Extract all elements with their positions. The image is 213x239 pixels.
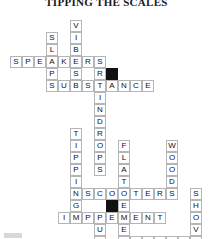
crossword-letter-cell[interactable]: S <box>190 188 202 200</box>
crossword-letter-cell[interactable]: C <box>94 188 106 200</box>
crossword-letter-cell[interactable]: P <box>94 152 106 164</box>
crossword-letter-cell[interactable]: E <box>178 236 190 239</box>
crossword-letter-cell[interactable]: R <box>94 128 106 140</box>
crossword-letter-cell[interactable]: E <box>118 236 130 239</box>
crossword-letter-cell[interactable]: G <box>70 200 82 212</box>
crossword-letter-cell[interactable]: I <box>58 212 70 224</box>
crossword-letter-cell[interactable]: O <box>106 188 118 200</box>
crossword-letter-cell[interactable]: A <box>46 56 58 68</box>
crossword-letter-cell[interactable]: V <box>70 20 82 32</box>
crossword-letter-cell[interactable]: V <box>190 224 202 236</box>
crossword-letter-cell[interactable]: N <box>118 80 130 92</box>
crossword-letter-cell[interactable]: P <box>82 212 94 224</box>
crossword-letter-cell[interactable]: T <box>94 80 106 92</box>
crossword-letter-cell[interactable]: R <box>154 188 166 200</box>
crossword-letter-cell[interactable]: P <box>46 68 58 80</box>
crossword-letter-cell[interactable]: T <box>118 176 130 188</box>
crossword-letter-cell[interactable]: O <box>166 152 178 164</box>
crossword-letter-cell[interactable]: N <box>142 212 154 224</box>
crossword-letter-cell[interactable]: A <box>118 164 130 176</box>
crossword-letter-cell[interactable]: S <box>94 164 106 176</box>
crossword-letter-cell[interactable]: O <box>94 140 106 152</box>
crossword-letter-cell[interactable]: W <box>166 140 178 152</box>
crossword-puzzle: TIPPING THE SCALES VIBESSLAPSSPEKRSRTIND… <box>0 0 213 239</box>
footer-mark <box>4 233 22 238</box>
crossword-letter-cell[interactable]: S <box>166 188 178 200</box>
crossword-letter-cell[interactable]: R <box>94 68 106 80</box>
crossword-letter-cell[interactable]: N <box>70 188 82 200</box>
crossword-letter-cell[interactable]: F <box>118 140 130 152</box>
crossword-letter-cell[interactable]: E <box>142 80 154 92</box>
crossword-letter-cell[interactable]: S <box>94 56 106 68</box>
crossword-letter-cell[interactable]: K <box>58 56 70 68</box>
crossword-letter-cell[interactable]: O <box>118 188 130 200</box>
crossword-letter-cell[interactable]: E <box>34 56 46 68</box>
crossword-letter-cell[interactable]: E <box>118 200 130 212</box>
crossword-letter-cell[interactable]: Y <box>154 236 166 239</box>
crossword-letter-cell[interactable]: S <box>82 80 94 92</box>
crossword-letter-cell[interactable]: N <box>130 236 142 239</box>
crossword-letter-cell[interactable]: R <box>82 56 94 68</box>
crossword-letter-cell[interactable]: E <box>142 188 154 200</box>
crossword-letter-cell[interactable]: I <box>70 176 82 188</box>
crossword-letter-cell[interactable]: L <box>46 44 58 56</box>
crossword-letter-cell[interactable]: M <box>70 212 82 224</box>
crossword-block-cell <box>106 68 118 80</box>
crossword-block-cell <box>106 200 118 212</box>
crossword-letter-cell[interactable]: S <box>46 32 58 44</box>
crossword-letter-cell[interactable]: E <box>106 212 118 224</box>
crossword-letter-cell[interactable]: U <box>94 224 106 236</box>
crossword-letter-cell[interactable]: A <box>106 80 118 92</box>
crossword-letter-cell[interactable]: S <box>46 80 58 92</box>
crossword-letter-cell[interactable]: P <box>22 56 34 68</box>
crossword-letter-cell[interactable]: Z <box>142 236 154 239</box>
crossword-letter-cell[interactable]: P <box>70 164 82 176</box>
crossword-letter-cell[interactable]: C <box>130 80 142 92</box>
crossword-letter-cell[interactable]: T <box>70 128 82 140</box>
crossword-letter-cell[interactable]: S <box>190 236 202 239</box>
crossword-letter-cell[interactable]: S <box>82 188 94 200</box>
crossword-letter-cell[interactable]: N <box>94 104 106 116</box>
crossword-letter-cell[interactable]: P <box>70 152 82 164</box>
crossword-letter-cell[interactable]: L <box>118 152 130 164</box>
crossword-letter-cell[interactable]: B <box>70 80 82 92</box>
crossword-letter-cell[interactable]: I <box>94 92 106 104</box>
crossword-letter-cell[interactable]: O <box>166 164 178 176</box>
crossword-letter-cell[interactable]: H <box>190 200 202 212</box>
crossword-letter-cell[interactable]: E <box>118 224 130 236</box>
crossword-letter-cell[interactable]: I <box>70 140 82 152</box>
crossword-letter-cell[interactable]: B <box>70 44 82 56</box>
crossword-grid[interactable]: VIBESSLAPSSPEKRSRTINDROPSUBSANCETIPPINGF… <box>0 0 213 239</box>
crossword-letter-cell[interactable]: P <box>94 212 106 224</box>
crossword-letter-cell[interactable]: S <box>70 68 82 80</box>
crossword-letter-cell[interactable]: U <box>58 80 70 92</box>
crossword-letter-cell[interactable]: M <box>166 236 178 239</box>
crossword-letter-cell[interactable]: M <box>118 212 130 224</box>
crossword-letter-cell[interactable]: O <box>190 212 202 224</box>
crossword-letter-cell[interactable]: D <box>94 116 106 128</box>
crossword-letter-cell[interactable]: E <box>130 212 142 224</box>
crossword-letter-cell[interactable]: I <box>70 32 82 44</box>
crossword-letter-cell[interactable]: D <box>166 176 178 188</box>
crossword-letter-cell[interactable]: T <box>94 236 106 239</box>
crossword-letter-cell[interactable]: E <box>70 56 82 68</box>
crossword-letter-cell[interactable]: S <box>10 56 22 68</box>
crossword-letter-cell[interactable]: T <box>154 212 166 224</box>
crossword-letter-cell[interactable]: T <box>130 188 142 200</box>
